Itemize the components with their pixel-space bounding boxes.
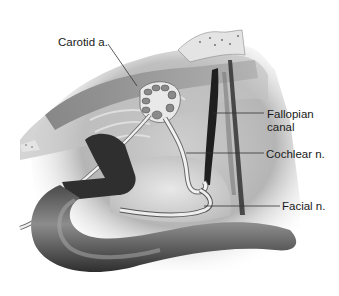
anatomical-figure: Carotid a. Fallopian canal Cochlear n. F…	[0, 0, 339, 296]
label-facial-nerve: Facial n.	[282, 200, 325, 213]
label-cochlear-nerve: Cochlear n.	[266, 148, 325, 161]
label-carotid-artery: Carotid a.	[58, 36, 108, 49]
label-fallopian-line2: canal	[267, 121, 314, 134]
label-fallopian-canal: Fallopian canal	[267, 108, 314, 134]
label-fallopian-line1: Fallopian	[267, 108, 314, 121]
cochlea	[140, 82, 180, 123]
